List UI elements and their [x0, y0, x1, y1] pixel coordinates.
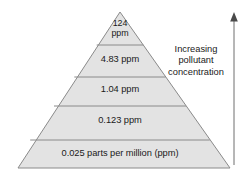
increasing-arrow-head — [230, 12, 238, 22]
pyramid-tier-label-2: 4.83 ppm — [78, 54, 162, 64]
pyramid-tier-label-3: 1.04 ppm — [68, 84, 172, 94]
increasing-concentration-annotation: Increasing pollutant concentration — [161, 44, 231, 78]
biomagnification-pyramid-figure: 124 ppm 4.83 ppm 1.04 ppm 0.123 ppm 0.02… — [0, 0, 244, 180]
pyramid-tier-label-1: 124 ppm — [98, 19, 142, 39]
pyramid-tier-label-4: 0.123 ppm — [58, 115, 182, 125]
pyramid-tier-label-5: 0.025 parts per million (ppm) — [26, 148, 214, 158]
